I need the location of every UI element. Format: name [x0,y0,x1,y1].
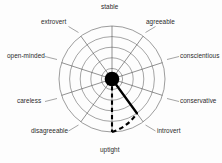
radar-chart: stable agreeable conscientious conservat… [0,0,222,163]
spoke-conscientious [112,63,162,79]
spoke-careless [62,79,112,95]
data-traces [112,79,137,132]
leader-agreeable [146,27,156,33]
radar-chart-canvas [0,0,222,163]
axis-label-extrovert: extrovert [41,18,66,25]
leader-careless [45,99,57,102]
spoke-disagreeable [81,79,112,122]
axis-label-careless: careless [17,97,41,104]
axis-label-introvert: introvert [157,127,181,134]
axis-label-disagreeable: disagreeable [31,127,68,134]
axis-label-stable: stable [101,3,118,10]
axis-label-open-minded: open-minded [7,52,45,59]
axis-label-conservative: conservative [180,97,216,104]
trace-connecting-arc [112,113,137,132]
leader-conservative [167,99,179,102]
axis-label-uptight: uptight [100,146,120,153]
axis-label-conscientious: conscientious [180,52,219,59]
leader-conscientious [167,57,179,60]
leader-introvert [146,125,156,131]
axis-label-agreeable: agreeable [146,18,175,25]
center-hub-icon [105,72,120,87]
spoke-agreeable [112,36,143,79]
spoke-open-minded [62,63,112,79]
spoke-conservative [112,79,162,95]
spoke-extrovert [81,36,112,79]
leader-extrovert [69,27,79,33]
leader-disagreeable [69,125,79,131]
leader-open-minded [45,57,57,60]
